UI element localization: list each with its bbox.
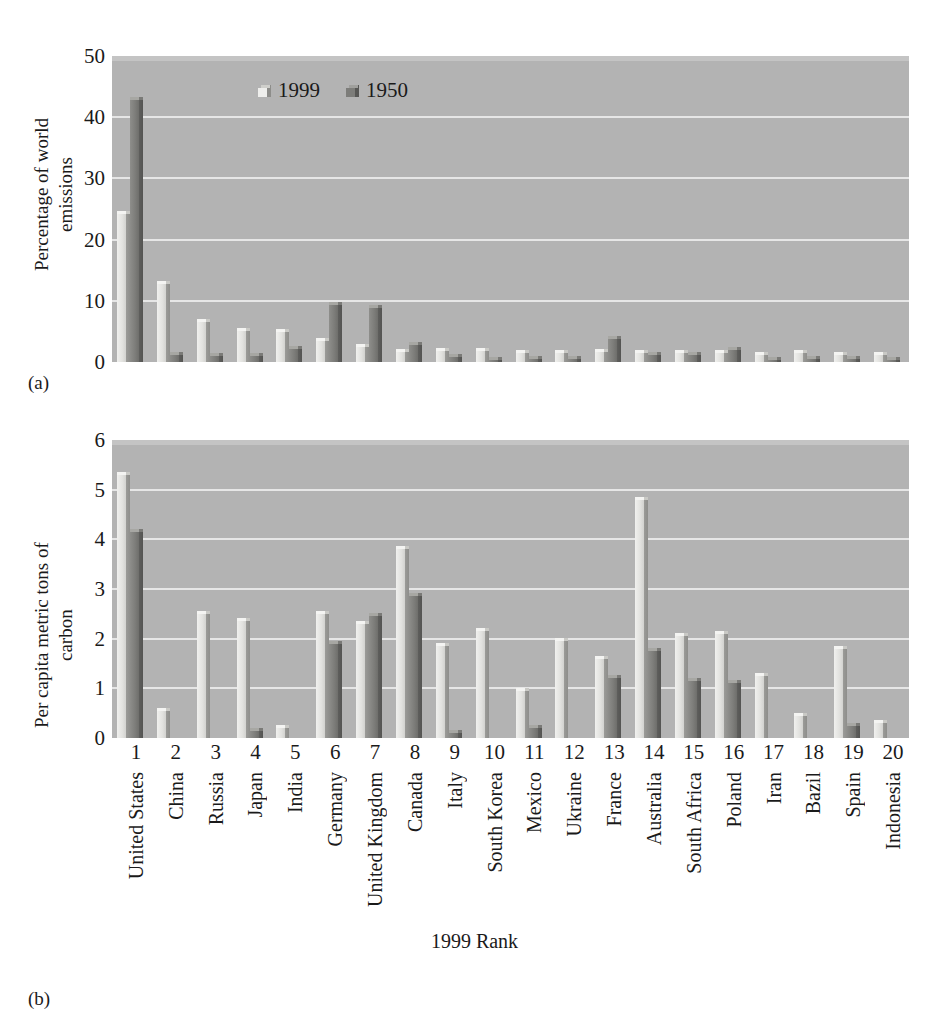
bar-group (630, 56, 670, 362)
bar-1950 (608, 339, 617, 362)
bar-1999 (516, 691, 525, 738)
bar-1999 (834, 649, 843, 738)
bar-1999 (675, 353, 684, 362)
country-label: Mexico (524, 772, 544, 833)
bar-1999 (595, 659, 604, 738)
bar-group (152, 440, 192, 738)
country-label: United States (126, 772, 146, 879)
bar-1950 (728, 350, 737, 362)
bar-1999 (555, 353, 564, 362)
bar-group (351, 440, 391, 738)
rank-label: 1 (131, 742, 142, 763)
bar-1999 (476, 631, 485, 738)
bar-1950 (250, 731, 259, 738)
bar-1999 (715, 353, 724, 362)
bar-1999 (755, 355, 764, 362)
rank-label: 6 (330, 742, 341, 763)
bar-1950 (529, 359, 538, 362)
bar-1999 (237, 331, 246, 362)
bar-1950 (728, 683, 737, 738)
bar-1950 (329, 305, 338, 362)
bar-1950 (489, 360, 498, 362)
panel-a-y-axis-title: Percentage of world emissions (30, 80, 82, 310)
bar-1950 (289, 349, 298, 362)
bar-1950 (449, 357, 458, 362)
legend-entry-1950: 1950 (346, 78, 408, 103)
bar-1950 (170, 355, 179, 362)
y-tick-label: 20 (84, 229, 105, 250)
bar-1999 (396, 549, 405, 738)
country-label: Bazil (803, 772, 823, 814)
country-label: Indonesia (883, 772, 903, 850)
bar-1999 (516, 353, 525, 362)
bar-1950 (887, 360, 896, 362)
bar-1950 (847, 726, 856, 738)
bar-group (869, 440, 909, 738)
bar-group (590, 56, 630, 362)
bar-group (750, 56, 790, 362)
bar-1999 (476, 351, 485, 362)
bar-group (471, 56, 511, 362)
bar-1950 (449, 733, 458, 738)
bar-group (471, 440, 511, 738)
bar-1999 (276, 728, 285, 738)
bar-group (511, 56, 551, 362)
bar-group (431, 440, 471, 738)
bar-1999 (874, 723, 883, 738)
bar-1950 (768, 360, 777, 362)
y-tick-label: 50 (84, 46, 105, 67)
bar-group (311, 440, 351, 738)
panel-b-tag: (b) (28, 988, 50, 1010)
panel-b-bars (112, 440, 909, 738)
bar-1999 (555, 641, 564, 738)
rank-label: 5 (290, 742, 301, 763)
bar-1999 (356, 347, 365, 362)
bar-1950 (250, 356, 259, 362)
bar-1950 (568, 359, 577, 362)
legend-label: 1999 (278, 78, 320, 103)
bar-1999 (595, 352, 604, 362)
country-label: Italy (445, 772, 465, 809)
x-axis-rank-labels: 1234567891011121314151617181920 (0, 742, 949, 770)
bar-1950 (807, 359, 816, 362)
bar-1999 (157, 284, 166, 362)
bar-group (869, 56, 909, 362)
bar-1999 (117, 475, 126, 738)
x-axis-title: 1999 Rank (0, 930, 949, 953)
figure-panel-b: Per capita metric tons of carbon 0123456… (0, 430, 949, 1026)
rank-label: 17 (763, 742, 784, 763)
bar-1950 (210, 356, 219, 362)
bar-1999 (276, 332, 285, 362)
country-label: Poland (724, 772, 744, 828)
bar-1950 (369, 308, 378, 362)
bar-group (789, 440, 829, 738)
bar-1950 (409, 345, 418, 362)
bar-1950 (409, 596, 418, 738)
bar-1999 (834, 355, 843, 362)
rank-label: 2 (171, 742, 182, 763)
rank-label: 12 (564, 742, 585, 763)
legend-label: 1950 (366, 78, 408, 103)
y-tick-label: 5 (95, 479, 106, 500)
rank-label: 20 (883, 742, 904, 763)
bar-1999 (755, 676, 764, 738)
bar-1950 (130, 532, 139, 738)
bar-group (710, 440, 750, 738)
y-tick-label: 0 (95, 352, 106, 373)
country-label: Japan (245, 772, 265, 818)
y-tick-label: 3 (95, 579, 106, 600)
y-tick-label: 10 (84, 290, 105, 311)
bar-1950 (847, 359, 856, 362)
country-label: Iran (764, 772, 784, 804)
bar-1999 (635, 353, 644, 362)
bar-group (710, 56, 750, 362)
rank-label: 3 (210, 742, 221, 763)
bar-1950 (608, 678, 617, 738)
country-label: Germany (325, 772, 345, 846)
legend-swatch-icon (258, 85, 271, 97)
rank-label: 8 (410, 742, 421, 763)
bar-1999 (436, 646, 445, 738)
bar-1999 (316, 614, 325, 738)
rank-label: 19 (843, 742, 864, 763)
bar-1999 (635, 500, 644, 738)
